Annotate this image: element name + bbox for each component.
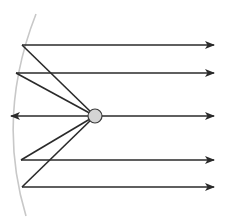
incident-ray: [22, 45, 95, 116]
incident-ray: [21, 116, 95, 160]
point-source-icon: [88, 109, 102, 123]
mirror-ray-diagram: [0, 0, 225, 219]
incident-ray: [16, 73, 95, 116]
incident-ray: [22, 116, 95, 187]
